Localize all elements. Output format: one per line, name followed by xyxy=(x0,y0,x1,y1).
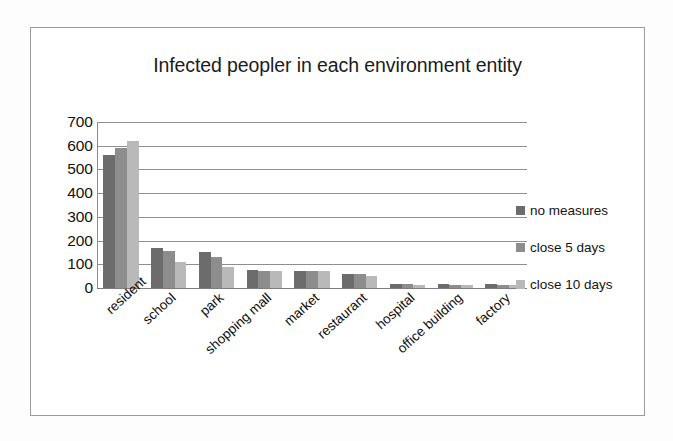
bar xyxy=(366,276,378,288)
bar xyxy=(151,248,163,288)
chart-container: Infected peopler in each environment ent… xyxy=(30,27,645,416)
bar-cluster xyxy=(438,122,473,288)
chart-title: Infected peopler in each environment ent… xyxy=(31,54,644,77)
bar-cluster xyxy=(390,122,425,288)
bar xyxy=(390,284,402,288)
bar xyxy=(163,251,175,288)
bar xyxy=(306,271,318,288)
bar-cluster xyxy=(294,122,329,288)
legend-label: close 5 days xyxy=(530,240,605,255)
legend-swatch-icon xyxy=(516,243,525,252)
legend-item: close 10 days xyxy=(516,277,641,292)
bar xyxy=(258,271,270,288)
x-axis-label-resident: resident xyxy=(103,290,131,317)
bar xyxy=(115,148,127,288)
bar-cluster xyxy=(151,122,186,288)
bar xyxy=(294,271,306,288)
legend-item: no measures xyxy=(516,203,641,218)
bar xyxy=(270,271,282,288)
y-tick-label-600: 600 xyxy=(37,136,93,154)
bar xyxy=(485,284,497,288)
bar xyxy=(354,274,366,288)
y-tick-label-700: 700 xyxy=(37,113,93,131)
bar-series-layer xyxy=(97,122,527,288)
bar xyxy=(402,284,414,288)
legend-label: no measures xyxy=(530,203,608,218)
bar xyxy=(222,267,234,288)
bar xyxy=(211,257,223,288)
bar-cluster xyxy=(342,122,377,288)
bar xyxy=(103,155,115,288)
y-tick-label-400: 400 xyxy=(37,184,93,202)
bar xyxy=(342,274,354,288)
y-tick-label-500: 500 xyxy=(37,160,93,178)
legend-item: close 5 days xyxy=(516,240,641,255)
bar-cluster xyxy=(199,122,234,288)
plot-area xyxy=(97,122,527,288)
y-tick-label-100: 100 xyxy=(37,255,93,273)
y-axis-tick-labels: 7006005004003002001000 xyxy=(31,122,93,288)
y-tick-label-200: 200 xyxy=(37,231,93,249)
bar xyxy=(497,285,509,288)
bar xyxy=(247,270,259,288)
y-tick-label-0: 0 xyxy=(37,279,93,297)
bar xyxy=(199,252,211,288)
legend-swatch-icon xyxy=(516,206,525,215)
bar-cluster xyxy=(247,122,282,288)
chart-legend: no measuresclose 5 daysclose 10 days xyxy=(516,203,641,314)
bar xyxy=(449,285,461,288)
gridline-0 xyxy=(97,288,527,289)
bar xyxy=(461,285,473,288)
y-tick-label-300: 300 xyxy=(37,207,93,225)
bar xyxy=(413,285,425,288)
bar xyxy=(175,262,187,288)
legend-swatch-icon xyxy=(516,280,525,289)
bar xyxy=(318,271,330,288)
bar-cluster xyxy=(103,122,138,288)
x-axis-category-labels: residentschoolparkshopping mallmarketres… xyxy=(97,290,527,385)
legend-label: close 10 days xyxy=(530,277,613,292)
bar xyxy=(438,284,450,288)
bar xyxy=(127,141,139,288)
